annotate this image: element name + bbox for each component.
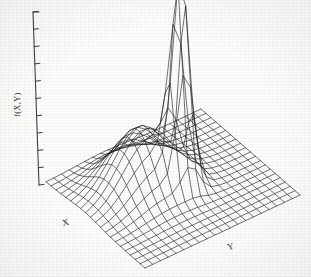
axis-tick	[39, 184, 44, 185]
axis-tick	[35, 63, 40, 64]
axis-tick	[37, 115, 42, 116]
axis-tick	[35, 81, 40, 82]
axis-tick	[33, 11, 38, 12]
surface-plot-figure: f(X,Y) X Y	[0, 0, 311, 277]
surface-plot-canvas: f(X,Y) X Y	[0, 0, 311, 277]
axis-tick	[34, 29, 39, 30]
axis-tick	[37, 133, 42, 134]
axis-tick	[34, 46, 39, 47]
axis-tick	[38, 150, 43, 151]
axis-label-z: f(X,Y)	[12, 92, 22, 117]
axis-tick	[36, 98, 41, 99]
axis-tick	[38, 167, 43, 168]
